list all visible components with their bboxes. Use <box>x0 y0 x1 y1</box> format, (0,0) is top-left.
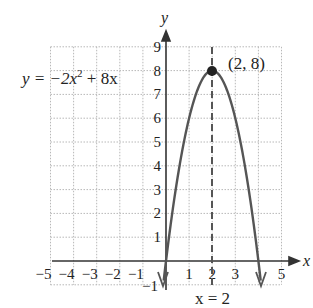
y-tick-label: 9 <box>154 39 162 55</box>
x-tick-label: 5 <box>278 266 286 282</box>
y-tick-label: 7 <box>154 86 162 102</box>
x-tick-label: 1 <box>185 266 193 282</box>
x-axis-arrow-icon <box>289 257 299 265</box>
y-tick-label: −1 <box>142 278 158 294</box>
x-axis-label: x <box>302 252 310 269</box>
x-tick-label: −3 <box>82 266 98 282</box>
y-tick-label: 2 <box>154 205 162 221</box>
equation-label: y = −2x2 + 8x <box>20 67 118 88</box>
parabola-chart: x y −5−4−3−2−11235 −1123456789 (2, 8) y … <box>0 0 313 308</box>
y-tick-label: 1 <box>154 229 162 245</box>
x-tick-label: −5 <box>36 266 52 282</box>
vertex-label: (2, 8) <box>228 54 265 73</box>
y-tick-label: 5 <box>154 134 162 150</box>
y-tick-label: 8 <box>154 63 162 79</box>
y-tick-label: 6 <box>154 110 162 126</box>
y-tick-label: 3 <box>154 182 162 198</box>
equation-rest: + 8x <box>83 69 119 88</box>
x-tick-label: −4 <box>59 266 75 282</box>
x-tick-label: −2 <box>105 266 121 282</box>
y-tick-label: 4 <box>154 158 162 174</box>
equation-base: y = −2x <box>20 69 77 88</box>
axis-of-symmetry-label: x = 2 <box>195 289 230 308</box>
x-tick-label: 3 <box>232 266 240 282</box>
y-axis-arrow-icon <box>162 31 170 41</box>
vertex-point <box>207 66 217 76</box>
y-axis-label: y <box>159 9 169 27</box>
